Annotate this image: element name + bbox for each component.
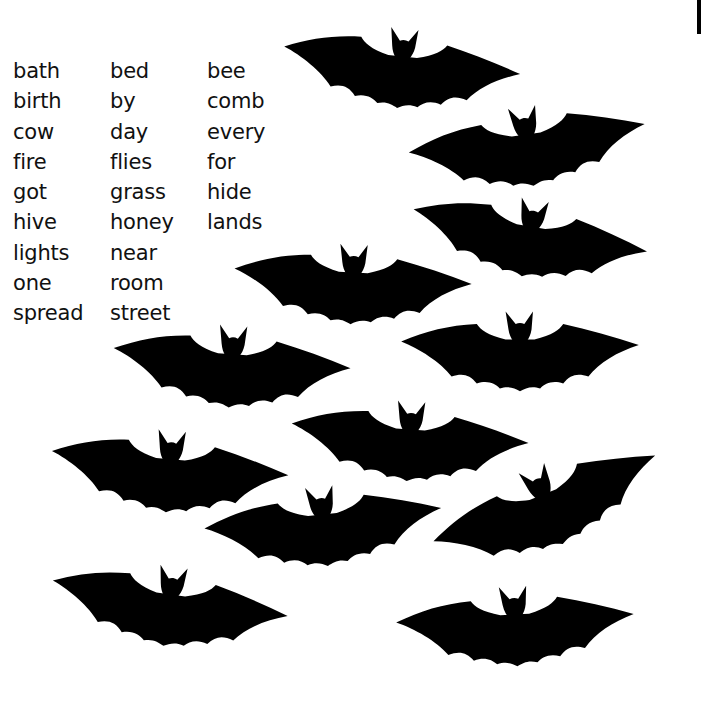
- bat-drawing-6: [109, 317, 353, 430]
- bat-drawing-4: [231, 238, 473, 344]
- bat-drawing-7: [287, 393, 531, 503]
- bat-drawing-11: [44, 551, 293, 676]
- bat-drawing-1: [277, 17, 523, 134]
- bat-drawing-12: [395, 580, 637, 686]
- bats-illustration: [0, 0, 701, 711]
- bat-drawing-2: [405, 91, 654, 216]
- bat-drawing-5: [401, 311, 639, 405]
